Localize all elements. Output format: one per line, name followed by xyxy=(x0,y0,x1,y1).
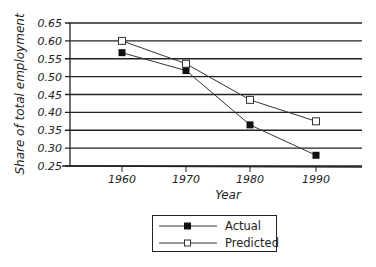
open-square-marker-icon xyxy=(119,37,126,44)
y-tick-label: 0.55 xyxy=(38,53,63,66)
y-tick-label: 0.35 xyxy=(38,124,63,137)
legend-item-actual: Actual xyxy=(159,218,261,234)
x-tick-label: 1980 xyxy=(236,173,264,186)
filled-square-marker-icon xyxy=(313,152,320,159)
x-tick-label: 1960 xyxy=(108,173,136,186)
legend: Actual Predicted xyxy=(152,215,277,252)
filled-square-marker-icon xyxy=(247,121,254,128)
open-square-marker-icon xyxy=(183,60,190,67)
y-tick-label: 0.40 xyxy=(38,106,63,119)
legend-item-predicted: Predicted xyxy=(159,235,279,251)
x-tick-label: 1990 xyxy=(302,173,330,186)
y-tick-label: 0.30 xyxy=(38,142,63,155)
legend-label-actual: Actual xyxy=(225,219,261,233)
y-tick-label: 0.65 xyxy=(38,17,63,30)
x-axis: 1960197019801990 xyxy=(62,166,362,186)
x-axis-title: Year xyxy=(215,188,242,202)
open-square-marker-icon xyxy=(313,118,320,125)
series-line-predicted xyxy=(122,41,316,121)
y-axis-ticks: 0.650.600.550.500.450.400.350.300.25 xyxy=(38,17,63,173)
line-chart: 0.650.600.550.500.450.400.350.300.25 196… xyxy=(0,0,376,215)
filled-square-marker-icon xyxy=(159,221,217,231)
data-series xyxy=(119,37,320,158)
open-square-marker-icon xyxy=(247,96,254,103)
y-tick-label: 0.25 xyxy=(38,160,63,173)
filled-square-marker-icon xyxy=(119,49,126,56)
open-square-marker-icon xyxy=(159,238,217,248)
y-tick-label: 0.60 xyxy=(38,35,63,48)
y-tick-label: 0.45 xyxy=(38,89,63,102)
series-line-actual xyxy=(122,53,316,156)
x-tick-label: 1970 xyxy=(172,173,200,186)
filled-square-marker-icon xyxy=(183,67,190,74)
legend-label-predicted: Predicted xyxy=(225,236,279,250)
y-axis-title: Share of total employment xyxy=(13,12,27,174)
y-tick-label: 0.50 xyxy=(38,71,63,84)
